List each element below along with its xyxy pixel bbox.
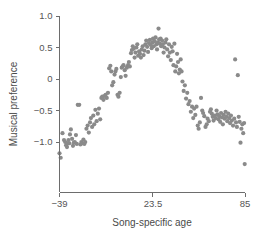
x-tick-label: 23.5	[144, 198, 163, 209]
data-point	[193, 113, 197, 117]
data-point	[241, 131, 245, 135]
data-point	[93, 108, 97, 112]
data-point	[109, 69, 113, 73]
data-point	[180, 79, 184, 83]
data-point	[185, 91, 189, 95]
data-point	[97, 107, 101, 111]
data-point	[229, 113, 233, 117]
data-point	[135, 42, 139, 46]
y-tick-label: 0.5	[39, 42, 52, 53]
data-point	[169, 58, 173, 62]
data-point	[77, 103, 81, 107]
data-point	[197, 127, 201, 131]
x-axis-title: Song-specific age	[112, 217, 192, 228]
data-point	[231, 124, 235, 128]
data-point	[111, 80, 115, 84]
x-tick-label: 85	[240, 198, 251, 209]
data-point	[96, 112, 100, 116]
data-point	[164, 37, 168, 41]
data-point	[95, 119, 99, 123]
data-point	[74, 133, 78, 137]
data-point	[155, 47, 159, 51]
data-point	[105, 96, 109, 100]
data-point	[188, 99, 192, 103]
data-point	[175, 52, 179, 56]
data-point	[98, 117, 102, 121]
data-point	[83, 140, 87, 144]
data-point	[194, 105, 198, 109]
data-point	[232, 117, 236, 121]
data-point	[127, 60, 131, 64]
data-point	[189, 110, 193, 114]
data-point	[138, 52, 142, 56]
y-tick-label: −1.0	[34, 136, 53, 147]
data-point	[124, 74, 128, 78]
data-point	[235, 125, 239, 129]
data-point	[243, 162, 247, 166]
data-point	[207, 119, 211, 123]
data-point	[145, 45, 149, 49]
data-point	[233, 57, 237, 61]
data-point	[65, 145, 69, 149]
data-point	[174, 64, 178, 68]
y-tick-label: −0.5	[34, 105, 53, 116]
data-point	[184, 96, 188, 100]
data-point	[106, 91, 110, 95]
data-point	[221, 122, 225, 126]
data-point	[91, 113, 95, 117]
data-point	[202, 114, 206, 118]
data-point	[88, 120, 92, 124]
data-point	[108, 64, 112, 68]
data-point	[156, 27, 160, 31]
data-point	[68, 132, 72, 136]
data-point	[172, 42, 176, 46]
data-point	[142, 49, 146, 53]
data-point	[198, 120, 202, 124]
data-point	[173, 69, 177, 73]
data-point	[242, 121, 246, 125]
x-tick-label: −39	[51, 198, 67, 209]
y-tick-label: 1.0	[39, 10, 52, 21]
data-point	[75, 142, 79, 146]
data-point	[153, 35, 157, 39]
data-point	[179, 57, 183, 61]
data-point	[166, 54, 170, 58]
data-point	[119, 75, 123, 79]
data-point	[234, 120, 238, 124]
x-axis-ticks: −3923.585	[51, 193, 250, 210]
data-point	[183, 83, 187, 87]
data-point	[116, 95, 120, 99]
data-point	[209, 107, 213, 111]
data-point	[141, 53, 145, 57]
data-point	[133, 55, 137, 59]
data-point	[171, 49, 175, 53]
data-points-layer	[57, 27, 246, 167]
data-point	[237, 115, 241, 119]
data-point	[69, 127, 73, 131]
data-point	[238, 141, 242, 145]
data-point	[128, 64, 132, 68]
data-point	[146, 50, 150, 54]
data-point	[67, 141, 71, 145]
data-point	[179, 69, 183, 73]
y-axis-title: Musical preference	[8, 61, 19, 146]
data-point	[114, 67, 118, 71]
data-point	[118, 91, 122, 95]
data-point	[214, 108, 218, 112]
data-point	[236, 73, 240, 77]
data-point	[199, 96, 203, 100]
y-tick-label: 0	[47, 73, 52, 84]
y-axis-ticks: 1.00.50−0.5−1.0	[34, 10, 60, 147]
data-point	[162, 50, 166, 54]
plot-svg: 1.00.50−0.5−1.0 −3923.585 Song-specific …	[0, 0, 264, 235]
data-point	[60, 131, 64, 135]
data-point	[239, 127, 243, 131]
scatter-plot-figure: 1.00.50−0.5−1.0 −3923.585 Song-specific …	[0, 0, 264, 235]
data-point	[87, 130, 91, 134]
data-point	[121, 63, 125, 67]
data-point	[182, 89, 186, 93]
